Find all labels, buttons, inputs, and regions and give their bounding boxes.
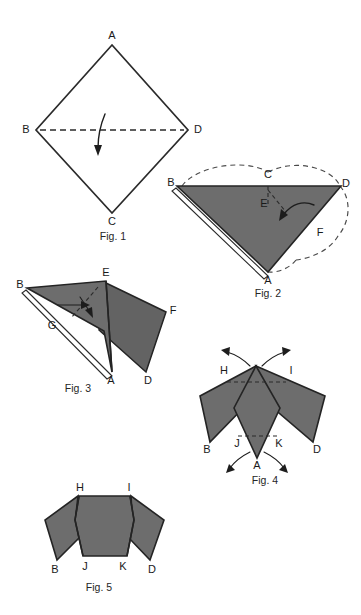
fig5-vertex-label-d: D: [148, 563, 156, 575]
fig3-vertex-label-d: D: [144, 374, 152, 386]
fig4-vertex-label-d: D: [313, 443, 321, 455]
fig5-vertex-label-i: I: [127, 481, 130, 493]
fig4-tip-arrow-lower-right: [264, 452, 288, 473]
figure-fig3: B E G F A D Fig. 3: [16, 266, 176, 394]
fig1-diamond-sheet: [36, 45, 188, 213]
fig4-tip-arrow-upper-right: [262, 347, 291, 366]
fig2-vertex-label-a: A: [264, 274, 272, 286]
fig5-right-flap: [129, 496, 164, 560]
fig4-vertex-label-k: K: [275, 437, 283, 449]
fig4-vertex-label-a: A: [253, 459, 261, 471]
fig1-caption: Fig. 1: [100, 230, 126, 242]
figure-fig2: B C D E F A Fig. 2: [167, 165, 350, 299]
fig1-vertex-label-a: A: [108, 29, 116, 41]
fig4-vertex-label-j: J: [234, 437, 240, 449]
fig3-vertex-label-g: G: [48, 319, 57, 331]
fig2-vertex-label-d: D: [342, 177, 350, 189]
fig4-caption: Fig. 4: [252, 474, 278, 486]
fig5-vertex-label-j: J: [82, 560, 88, 572]
fig2-vertex-label-b: B: [167, 176, 174, 188]
fig1-vertex-label-d: D: [194, 123, 202, 135]
fig2-vertex-label-f: F: [317, 226, 324, 238]
fig5-center-body: [75, 496, 134, 556]
origami-instruction-sheet: A B C D Fig. 1: [0, 0, 361, 615]
fig4-tip-arrow-lower-left: [226, 452, 250, 473]
fig3-main-body: [27, 281, 112, 372]
fig1-vertex-label-b: B: [22, 123, 29, 135]
fig2-vertex-label-e: E: [260, 197, 267, 209]
fig2-ghost-arc-left: [182, 165, 268, 186]
fig2-vertex-label-c: C: [264, 168, 272, 180]
fig5-vertex-label-k: K: [119, 560, 127, 572]
figure-fig4: H I B J K D A Fig. 4: [200, 347, 325, 486]
figure-fig1: A B C D Fig. 1: [22, 29, 202, 242]
fig3-vertex-label-e: E: [102, 266, 109, 278]
fig5-vertex-label-b: B: [51, 563, 58, 575]
fig1-vertex-label-c: C: [108, 215, 116, 227]
fig3-vertex-label-b: B: [16, 278, 23, 290]
fig4-vertex-label-i: I: [289, 364, 292, 376]
fig4-vertex-label-h: H: [220, 364, 228, 376]
fig5-left-flap: [45, 496, 79, 560]
fig3-caption: Fig. 3: [65, 382, 91, 394]
fig2-ghost-arc-flap-upper: [338, 186, 348, 236]
fig2-ghost-arc-flap-lower: [296, 236, 338, 260]
fig5-caption: Fig. 5: [86, 581, 112, 593]
fig3-vertex-label-a: A: [107, 374, 115, 386]
fig2-caption: Fig. 2: [255, 287, 281, 299]
diagram-canvas: A B C D Fig. 1: [0, 0, 361, 615]
fig2-ghost-arc-right: [268, 165, 340, 186]
fig5-vertex-label-h: H: [76, 481, 84, 493]
fig4-vertex-label-b: B: [203, 443, 210, 455]
fig3-vertex-label-f: F: [170, 304, 177, 316]
figure-fig5: H I B J K D Fig. 5: [45, 481, 164, 593]
